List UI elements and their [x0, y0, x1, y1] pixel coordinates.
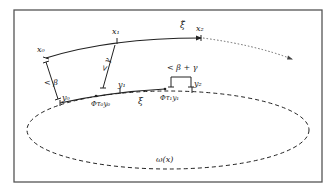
- label-omega-x: ω(x): [156, 155, 173, 164]
- label-lt-gamma: < γ: [99, 57, 112, 73]
- label-xi: ξ: [138, 96, 144, 106]
- label-x2: x₂: [196, 24, 204, 33]
- label-x0: x₀: [37, 45, 46, 54]
- trajectory-dotted-continuation: [203, 38, 292, 59]
- label-lt-beta-gamma: < β + γ: [167, 63, 198, 72]
- point-phi-tau1-y1: [164, 88, 167, 91]
- label-y2: y₂: [193, 79, 202, 88]
- label-x1: x₁: [112, 27, 120, 36]
- label-y1: y₁: [117, 80, 126, 89]
- label-phi-tau0-y0: Φτ₀y₀: [91, 100, 110, 108]
- diagram-canvas: x₀ x₁ x₂ ξ̃ y₀ y₁ y₂ ξ Φτ₀y₀ Φτ₁y₁ < β <…: [0, 0, 335, 192]
- point-phi-tau0-y0: [95, 95, 98, 98]
- trajectory-xi-tilde: [46, 38, 201, 58]
- label-phi-tau1-y1: Φτ₁y₁: [160, 94, 179, 102]
- label-lt-beta: < β: [44, 78, 58, 87]
- arrow-head-dotted: [287, 56, 293, 60]
- bracket-beta-gamma: [171, 77, 191, 87]
- label-xi-tilde: ξ̃: [180, 20, 186, 30]
- label-y0: y₀: [61, 93, 71, 102]
